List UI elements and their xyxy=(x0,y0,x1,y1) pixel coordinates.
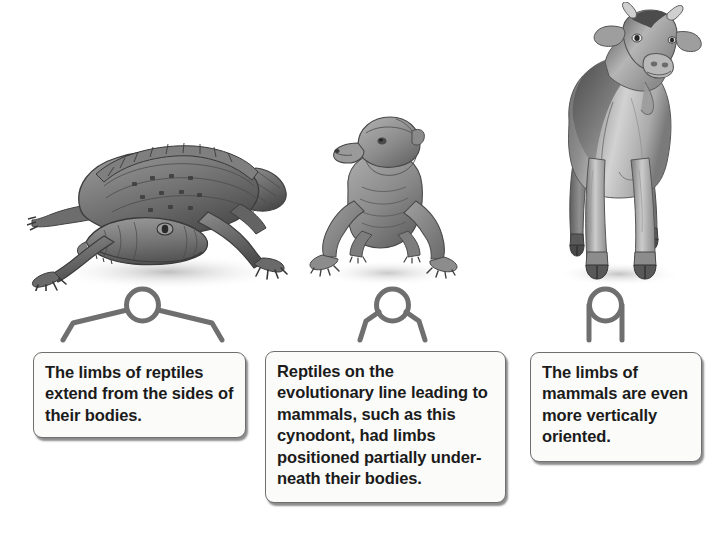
limb-schematic-erect xyxy=(583,285,628,340)
caption-text-mammal: The limbs of mammals are even more verti… xyxy=(542,362,691,448)
limb-schematic-semi-erect xyxy=(355,285,430,340)
diagram-canvas: The limbs of reptiles extend from the si… xyxy=(0,0,720,536)
caption-box-reptile: The limbs of reptiles extend from the si… xyxy=(33,352,246,438)
limb-schematic-sprawling xyxy=(55,285,230,340)
cynodont-illustration xyxy=(296,105,471,291)
caption-text-reptile: The limbs of reptiles extend from the si… xyxy=(45,362,235,426)
cow-illustration xyxy=(527,2,709,290)
caption-box-mammal: The limbs of mammals are even more verti… xyxy=(530,352,702,462)
caption-box-cynodont: Reptiles on the evolutionary line leadin… xyxy=(265,351,506,503)
crocodile-illustration xyxy=(8,96,298,291)
caption-text-cynodont: Reptiles on the evolutionary line leadin… xyxy=(277,361,495,490)
